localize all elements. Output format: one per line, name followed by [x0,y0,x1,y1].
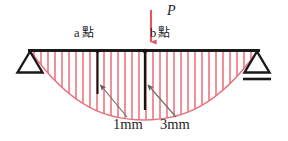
label-point-a-cjk: 點 [80,26,94,40]
label-point-a: a點 [74,27,94,40]
label-point-b: b點 [150,27,170,40]
label-deflection-1mm: 1mm [113,117,143,132]
deflection-hatch-group [34,49,251,125]
point-marker-a [95,49,99,53]
beam-deflection-figure: a點 b點 P 1mm 3mm [0,0,288,141]
label-point-a-letter: a [74,26,80,40]
beam-diagram-svg [0,0,288,141]
leader-line-3mm [148,85,176,117]
label-load-p: P [167,4,176,18]
label-point-b-cjk: 點 [156,26,170,40]
label-deflection-3mm: 3mm [160,117,190,132]
point-marker-b [143,49,147,53]
